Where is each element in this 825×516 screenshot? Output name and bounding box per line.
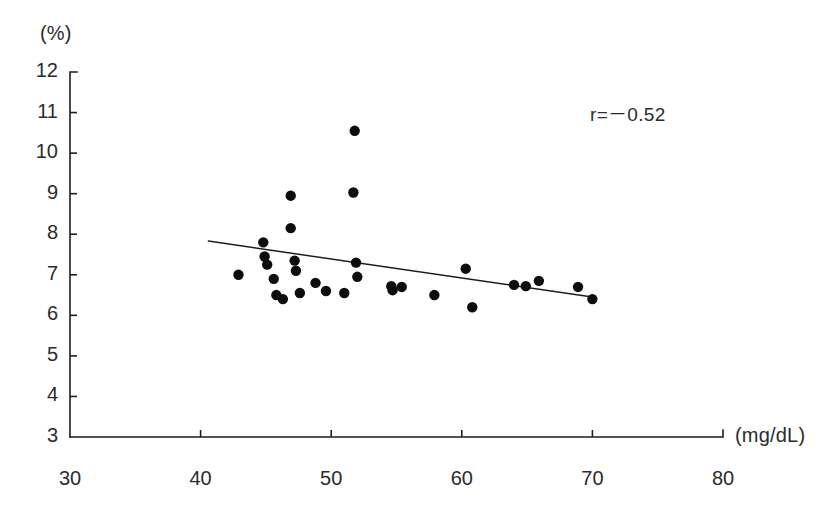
data-points-group xyxy=(233,126,597,313)
data-point xyxy=(262,259,272,269)
data-point xyxy=(291,266,301,276)
y-axis-tick-marks xyxy=(70,113,77,397)
data-point xyxy=(258,237,268,247)
data-point xyxy=(278,294,288,304)
data-point xyxy=(521,281,531,291)
data-point xyxy=(233,270,243,280)
axes-group xyxy=(70,72,723,437)
data-point xyxy=(310,278,320,288)
data-point xyxy=(509,280,519,290)
data-point xyxy=(387,285,397,295)
data-point xyxy=(467,302,477,312)
data-point xyxy=(295,288,305,298)
data-point xyxy=(286,190,296,200)
data-point xyxy=(289,255,299,265)
data-point xyxy=(397,282,407,292)
y-axis-line xyxy=(70,72,77,437)
data-point xyxy=(321,286,331,296)
data-point xyxy=(461,263,471,273)
data-point xyxy=(352,272,362,282)
x-axis-tick-marks xyxy=(201,430,593,437)
plot-area xyxy=(0,0,825,516)
data-point xyxy=(350,126,360,136)
data-point xyxy=(351,257,361,267)
scatter-chart-figure: (%) (mg/dL) r=－0.52 3456789101112 304050… xyxy=(0,0,825,516)
data-point xyxy=(348,187,358,197)
data-point xyxy=(339,288,349,298)
data-point xyxy=(429,290,439,300)
x-axis-line xyxy=(70,430,723,437)
data-point xyxy=(534,276,544,286)
data-point xyxy=(269,274,279,284)
data-point xyxy=(587,294,597,304)
data-point xyxy=(286,223,296,233)
data-point xyxy=(573,282,583,292)
